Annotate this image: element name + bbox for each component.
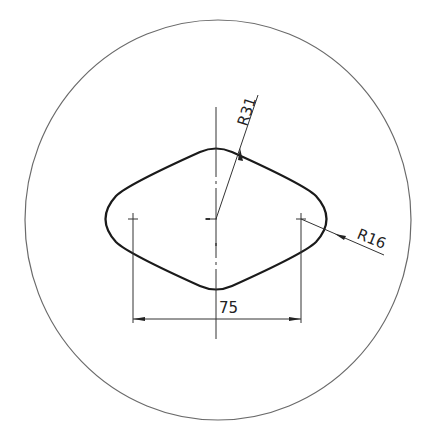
arrowhead-left <box>133 317 145 321</box>
arrowhead-r16 <box>335 234 346 240</box>
dimension-text-r16: R16 <box>355 225 389 253</box>
cad-drawing-canvas: 75 R31 R16 <box>0 0 427 436</box>
dimension-text-r31: R31 <box>234 95 260 129</box>
center-point-middle <box>206 218 210 220</box>
center-point-lower <box>215 243 217 246</box>
outer-circle <box>25 20 411 420</box>
arrowhead-right <box>289 317 301 321</box>
dimension-text-75: 75 <box>219 299 238 317</box>
